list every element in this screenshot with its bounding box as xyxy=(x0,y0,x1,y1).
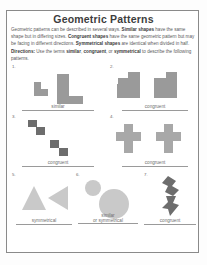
problem-shapes xyxy=(110,118,198,164)
problem-7: 7. congruent xyxy=(144,172,198,234)
answer-blank-6-line2[interactable]: or symmetrical xyxy=(78,218,138,224)
l-shapes-different-sizes-icon xyxy=(12,68,104,104)
worksheet-page: Geometric Patterns Geometric patterns ca… xyxy=(0,0,207,265)
problem-shapes xyxy=(76,176,140,218)
problem-shapes xyxy=(12,118,104,164)
answer-blank-1[interactable]: similar xyxy=(22,104,94,111)
answer-text: congruent xyxy=(160,218,180,223)
answer-blank-2[interactable]: congruent xyxy=(122,104,188,111)
answer-blank-5[interactable]: symmetrical xyxy=(16,218,72,225)
problem-shapes xyxy=(12,68,104,104)
answer-text: similar xyxy=(51,104,64,109)
problem-shapes xyxy=(110,68,198,104)
problems-grid: 1. similar 2. congruen xyxy=(6,62,199,253)
cross-pair-icon xyxy=(110,118,198,164)
zigzag-step-pair-icon xyxy=(12,118,104,164)
problem-1: 1. similar xyxy=(12,64,104,112)
page-title: Geometric Patterns xyxy=(0,13,207,25)
problem-5: 5. symmetrical xyxy=(12,172,74,234)
answer-blank-7[interactable]: congruent xyxy=(144,218,196,225)
triangle-pair-icon xyxy=(12,176,74,218)
arrow-zigzag-pair-icon xyxy=(144,176,198,220)
answer-blank-4[interactable]: congruent xyxy=(122,160,188,167)
intro-paragraph: Geometric patterns can be described in s… xyxy=(11,26,196,47)
problem-3: 3. congruent xyxy=(12,114,104,168)
answer-text-line2: or symmetrical xyxy=(93,218,123,223)
problem-shapes xyxy=(12,176,74,218)
problem-shapes xyxy=(144,176,198,220)
answer-text: congruent xyxy=(48,160,68,165)
answer-text: symmetrical xyxy=(32,218,57,223)
problem-2: 2. congruent xyxy=(110,64,198,112)
staircase-mirrored-pair-icon xyxy=(110,68,198,104)
directions-paragraph: Directions: Use the terms similar, congr… xyxy=(11,48,196,62)
problem-4: 4. congruent xyxy=(110,114,198,168)
answer-blank-3[interactable]: congruent xyxy=(22,160,94,167)
circle-pair-different-sizes-icon xyxy=(76,176,140,218)
answer-text: congruent xyxy=(145,160,165,165)
answer-text: congruent xyxy=(145,104,165,109)
problem-6: 6. similar or symmetrical xyxy=(76,172,140,234)
